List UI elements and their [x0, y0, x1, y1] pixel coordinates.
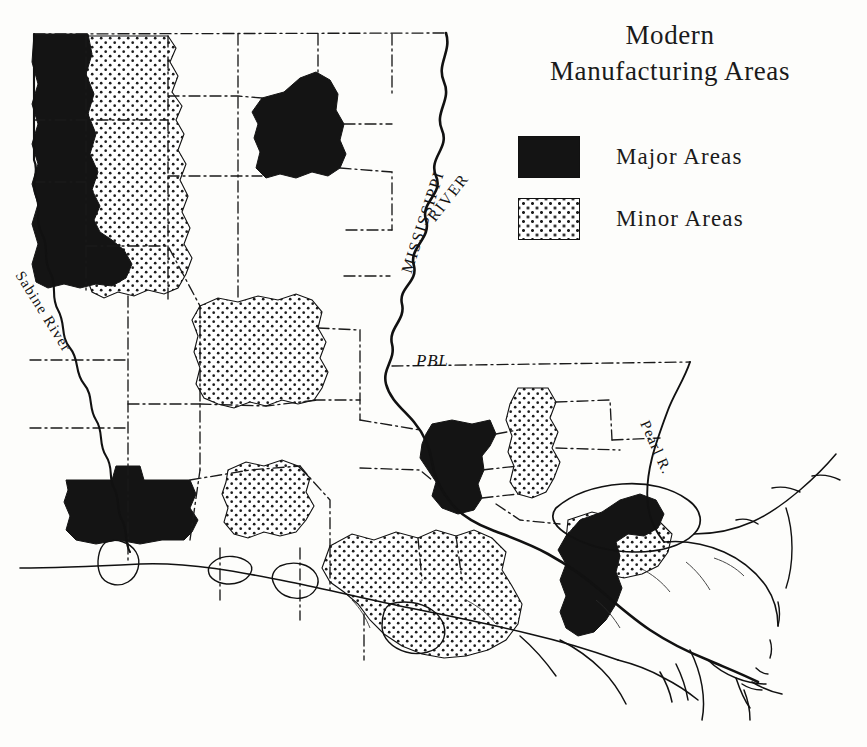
title-line-1: Modern [480, 18, 860, 54]
legend-item-major: Major Areas [518, 136, 744, 178]
title-line-2: Manufacturing Areas [480, 54, 860, 90]
legend-item-minor: Minor Areas [518, 198, 744, 240]
legend-swatch-major-icon [518, 136, 580, 178]
map-legend: Major Areas Minor Areas [518, 136, 744, 260]
legend-label-major: Major Areas [616, 144, 742, 170]
minor-area-central-alexandria [192, 294, 328, 408]
map-title: Modern Manufacturing Areas [480, 18, 860, 89]
map-figure: Modern Manufacturing Areas Major Areas M… [0, 0, 867, 747]
louisiana-map [0, 0, 867, 747]
minor-area-florida-parishes-strip [506, 388, 560, 498]
legend-swatch-minor-icon [518, 198, 580, 240]
legend-label-minor: Minor Areas [616, 206, 744, 232]
